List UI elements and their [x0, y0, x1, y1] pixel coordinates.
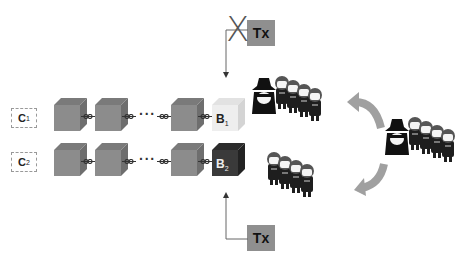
arrow-down-icon [222, 28, 252, 80]
arrow-up-icon [222, 190, 252, 242]
chain-link-icon [198, 159, 212, 164]
attacker-group-right [385, 113, 474, 165]
chain-label-text: C [18, 156, 26, 168]
chain-link-icon [81, 114, 95, 119]
head-block-b2: B2 [212, 143, 244, 175]
chain-link-icon [157, 114, 171, 119]
attacker-group-top [252, 72, 342, 122]
block-label: B1 [216, 112, 229, 127]
chain-link-icon [122, 114, 136, 119]
ellipsis: ··· [139, 151, 156, 167]
crowd-icon [252, 72, 342, 122]
chain-link-icon [122, 159, 136, 164]
chain-label-text: C [18, 112, 26, 124]
block-label: B2 [216, 157, 229, 172]
chain-label-sub: 2 [26, 159, 30, 166]
chain-label-sub: 1 [26, 115, 30, 122]
crowd-icon [385, 113, 474, 165]
ellipsis: ··· [139, 106, 156, 122]
chain-label-c2: C2 [11, 152, 37, 172]
chain-link-icon [81, 159, 95, 164]
curved-arrow-down-left-icon [350, 162, 390, 196]
chain-link-icon [157, 159, 171, 164]
chain-label-c1: C1 [11, 108, 37, 128]
curved-arrow-up-left-icon [345, 92, 385, 132]
head-block-b1: B1 [212, 98, 244, 130]
chain-link-icon [198, 114, 212, 119]
crowd-icon [266, 148, 336, 198]
honest-group-bottom [266, 148, 336, 198]
